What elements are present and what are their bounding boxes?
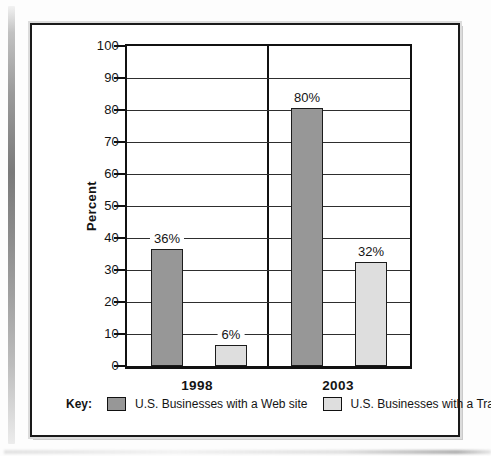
- bar-value-label-1998-series-0: 36%: [150, 231, 184, 246]
- bar-value-label-2003-series-1: 32%: [354, 244, 388, 259]
- y-axis-tick-label-60: 60: [85, 166, 119, 182]
- y-axis-tick-label-90: 90: [85, 70, 119, 86]
- gridline-50: [127, 206, 410, 207]
- key-item-web-site: U.S. Businesses with a Web site: [135, 397, 308, 411]
- bar-1998-series-1: [215, 345, 247, 366]
- y-axis-tick-label-50: 50: [85, 198, 119, 214]
- gridline-70: [127, 142, 410, 143]
- chart-key: Key: U.S. Businesses with a Web site U.S…: [66, 397, 491, 411]
- page-edge-gradient: [8, 6, 15, 444]
- bar-value-label-2003-series-0: 80%: [290, 90, 324, 105]
- y-axis-tick-label-70: 70: [85, 134, 119, 150]
- x-axis-label-1998: 1998: [181, 378, 213, 393]
- bar-1998-series-0: [151, 249, 183, 366]
- bar-value-label-1998-series-1: 6%: [218, 327, 245, 342]
- y-axis-tick-label-100: 100: [85, 38, 119, 54]
- key-swatch-web-site: [107, 397, 126, 411]
- key-swatch-transactional-web-site: [323, 397, 342, 411]
- y-axis-tick-label-40: 40: [85, 230, 119, 246]
- y-axis-tick-label-80: 80: [85, 102, 119, 118]
- gridline-60: [127, 174, 410, 175]
- scan-artifact: [4, 450, 491, 454]
- gridline-80: [127, 110, 410, 111]
- y-axis-tick-label-20: 20: [85, 294, 119, 310]
- chart-frame: Percent 1998 2003 1009080706050403020100…: [30, 23, 460, 437]
- key-item-transactional-web-site: U.S. Businesses with a Transactional Web…: [351, 397, 491, 411]
- key-label: Key:: [66, 397, 92, 411]
- y-axis-tick-label-10: 10: [85, 326, 119, 342]
- y-axis-tick-label-0: 0: [85, 358, 119, 374]
- bar-2003-series-0: [291, 108, 323, 366]
- x-axis-label-2003: 2003: [322, 378, 354, 393]
- bar-2003-series-1: [355, 262, 387, 366]
- gridline-90: [127, 78, 410, 79]
- plot-area: Percent 1998 2003 1009080706050403020100…: [125, 44, 412, 369]
- y-axis-tick-label-30: 30: [85, 262, 119, 278]
